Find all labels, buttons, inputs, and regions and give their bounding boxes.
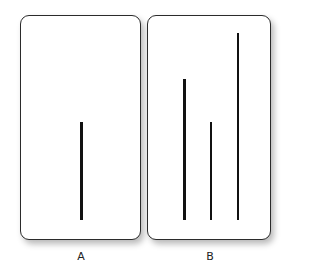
standard-line	[80, 122, 83, 220]
comparison-line-2	[210, 122, 213, 220]
card-a-label: A	[71, 250, 91, 264]
comparison-line-3	[237, 33, 240, 220]
card-b-label: B	[200, 250, 220, 264]
comparison-line-1	[183, 79, 186, 220]
